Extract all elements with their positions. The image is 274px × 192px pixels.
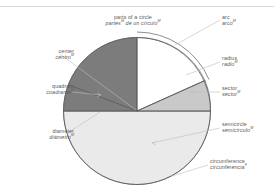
label-arc-es: arcoM	[222, 20, 236, 26]
label-semicircle: semicircle semicírculoM	[222, 121, 253, 134]
label-circumference: circumference circunferenciaF	[210, 158, 247, 171]
label-diameter: diameter diámetroM	[14, 128, 74, 141]
label-sector-es: sectorM	[222, 91, 240, 97]
label-radius-es: radioM	[222, 61, 237, 67]
quadrant-region	[64, 38, 138, 112]
label-semicircle-es: semicírculoM	[222, 127, 253, 133]
label-sector: sector sectorM	[222, 85, 240, 98]
circle-diagram-page: parts of a circle partesM de un círculoM…	[0, 0, 274, 192]
semicircle-region	[64, 111, 211, 185]
label-center-es: centroM	[22, 54, 74, 60]
label-circumference-es: circunferenciaF	[210, 164, 247, 170]
label-diameter-es: diámetroM	[14, 134, 74, 140]
figure-title: parts of a circle partesM de un círculoM	[78, 14, 188, 27]
label-radius: radius radioM	[222, 55, 237, 68]
label-quadrant: quadrant cuadranteM	[10, 83, 74, 96]
label-center: center centroM	[22, 48, 74, 61]
label-arc: arc arcoM	[222, 14, 236, 27]
label-quadrant-es: cuadranteM	[10, 89, 74, 95]
figure-title-es: partesM de un círculoM	[78, 20, 188, 26]
